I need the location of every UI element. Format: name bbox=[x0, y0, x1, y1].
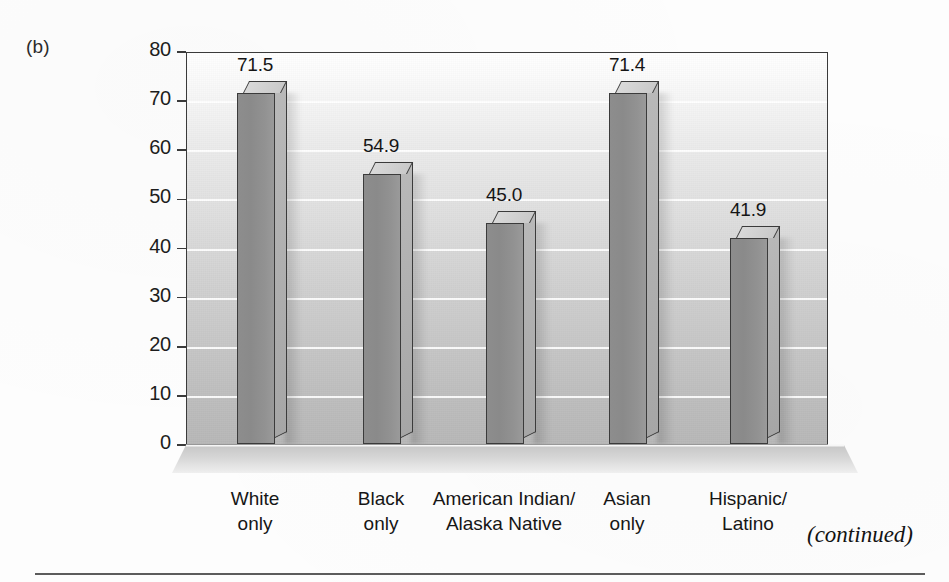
bar-front-face bbox=[237, 93, 275, 444]
bar-value-label: 45.0 bbox=[459, 184, 549, 206]
y-tick-mark bbox=[177, 444, 186, 446]
bar-top-face bbox=[492, 211, 536, 223]
y-tick-label: 30 bbox=[125, 284, 171, 307]
bar-side-face bbox=[401, 162, 413, 438]
y-tick-label: 50 bbox=[125, 185, 171, 208]
bar-side-face bbox=[768, 226, 780, 438]
bar-side-face bbox=[275, 81, 287, 438]
bar-front-face bbox=[609, 93, 647, 444]
bar bbox=[237, 93, 275, 444]
bar-top-face bbox=[369, 162, 413, 174]
y-tick-label: 70 bbox=[125, 87, 171, 110]
bar-front-face bbox=[730, 238, 768, 444]
bar-shadow bbox=[411, 174, 427, 444]
bar-side-face bbox=[647, 81, 659, 438]
bar bbox=[730, 238, 768, 444]
bar-value-label: 41.9 bbox=[703, 199, 793, 221]
bar-value-label: 71.5 bbox=[210, 54, 300, 76]
bar-shadow bbox=[657, 93, 673, 444]
bar-side-face bbox=[524, 211, 536, 438]
bar-top-face bbox=[243, 81, 287, 93]
y-tick-mark bbox=[177, 199, 186, 201]
bar-shadow bbox=[778, 238, 794, 444]
bar bbox=[363, 174, 401, 444]
bar-top-face bbox=[736, 226, 780, 238]
y-tick-label: 60 bbox=[125, 136, 171, 159]
floor-shape bbox=[158, 443, 858, 479]
bar bbox=[609, 93, 647, 444]
y-tick-mark bbox=[177, 51, 186, 53]
bar-front-face bbox=[486, 223, 524, 444]
y-tick-mark bbox=[177, 100, 186, 102]
x-category-label-line: Hispanic/ bbox=[638, 486, 858, 511]
y-tick-label: 0 bbox=[125, 431, 171, 454]
bar-shadow bbox=[534, 223, 550, 444]
continued-note: (continued) bbox=[807, 522, 913, 548]
y-tick-mark bbox=[177, 297, 186, 299]
y-tick-label: 10 bbox=[125, 382, 171, 405]
y-tick-mark bbox=[177, 149, 186, 151]
bar bbox=[486, 223, 524, 444]
y-tick-label: 80 bbox=[125, 38, 171, 61]
y-tick-mark bbox=[177, 395, 186, 397]
plot-area bbox=[186, 52, 828, 445]
y-tick-mark bbox=[177, 346, 186, 348]
bar-value-label: 71.4 bbox=[582, 54, 672, 76]
bar-front-face bbox=[363, 174, 401, 444]
bottom-rule bbox=[35, 573, 925, 575]
bar-shadow bbox=[285, 93, 301, 444]
bar-top-face bbox=[615, 81, 659, 93]
bar-value-label: 54.9 bbox=[336, 135, 426, 157]
y-tick-mark bbox=[177, 248, 186, 250]
chart-floor bbox=[158, 443, 858, 479]
y-tick-label: 40 bbox=[125, 235, 171, 258]
y-tick-label: 20 bbox=[125, 333, 171, 356]
panel-letter: (b) bbox=[26, 36, 50, 58]
